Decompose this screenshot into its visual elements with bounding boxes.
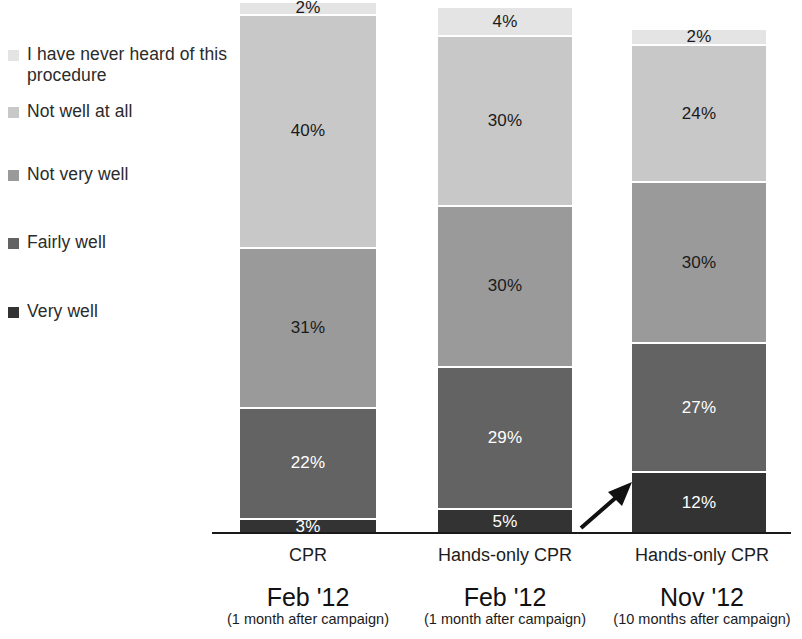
segment-value-not-well-at-all-bar2: 30% [488,111,523,131]
segment-value-never-heard-bar2: 4% [493,12,518,32]
category-note-2: (1 month after campaign) [415,612,595,628]
segment-fairly-well-bar2: 29% [438,366,572,508]
segment-not-very-well-bar3: 30% [632,181,766,342]
category-name-2: Hands-only CPR [415,546,595,566]
segment-never-heard-bar2: 4% [438,8,572,35]
category-label-cpr-feb12: CPR Feb '12 (1 month after campaign) [218,546,398,628]
segment-fairly-well-bar3: 27% [632,342,766,471]
stacked-bar-chart: I have never heard of this procedure Not… [0,0,802,639]
category-date-1: Feb '12 [218,584,398,610]
segment-not-well-at-all-bar1: 40% [240,14,376,248]
segment-value-very-well-bar3: 12% [682,493,717,513]
bar-hands-only-feb12: 4% 30% 30% 29% 5% [438,8,572,534]
segment-value-fairly-well-bar3: 27% [682,398,717,418]
segment-not-well-at-all-bar2: 30% [438,35,572,205]
segment-value-never-heard-bar1: 2% [296,0,321,18]
plot-area: 2% 40% 31% 22% 3% 4% 30% 30% [0,0,802,534]
segment-value-not-well-at-all-bar1: 40% [291,121,326,141]
segment-not-very-well-bar1: 31% [240,247,376,406]
segment-value-fairly-well-bar1: 22% [291,453,326,473]
segment-never-heard-bar3: 2% [632,30,766,44]
segment-not-very-well-bar2: 30% [438,205,572,365]
category-name-1: CPR [218,546,398,566]
category-note-3: (10 months after campaign) [603,612,801,628]
category-name-3: Hands-only CPR [603,546,801,566]
segment-value-fairly-well-bar2: 29% [488,428,523,448]
category-label-row: CPR Feb '12 (1 month after campaign) Han… [0,546,802,639]
segment-value-not-very-well-bar1: 31% [291,318,326,338]
segment-fairly-well-bar1: 22% [240,407,376,519]
category-date-3: Nov '12 [603,584,801,610]
segment-not-well-at-all-bar3: 24% [632,44,766,181]
segment-never-heard-bar1: 2% [240,3,376,14]
segment-very-well-bar2: 5% [438,508,572,534]
category-label-hands-only-nov12: Hands-only CPR Nov '12 (10 months after … [603,546,801,628]
category-label-hands-only-feb12: Hands-only CPR Feb '12 (1 month after ca… [415,546,595,628]
growth-arrow-icon [578,478,640,534]
segment-very-well-bar3: 12% [632,471,766,534]
segment-value-not-very-well-bar2: 30% [488,276,523,296]
segment-value-not-well-at-all-bar3: 24% [682,104,717,124]
segment-value-very-well-bar2: 5% [493,512,518,532]
segment-value-very-well-bar1: 3% [296,517,321,537]
category-date-2: Feb '12 [415,584,595,610]
category-note-1: (1 month after campaign) [218,612,398,628]
segment-value-never-heard-bar3: 2% [687,27,712,47]
bar-hands-only-nov12: 2% 24% 30% 27% 12% [632,30,766,534]
segment-value-not-very-well-bar3: 30% [682,253,717,273]
bar-cpr-feb12: 2% 40% 31% 22% 3% [240,3,376,534]
